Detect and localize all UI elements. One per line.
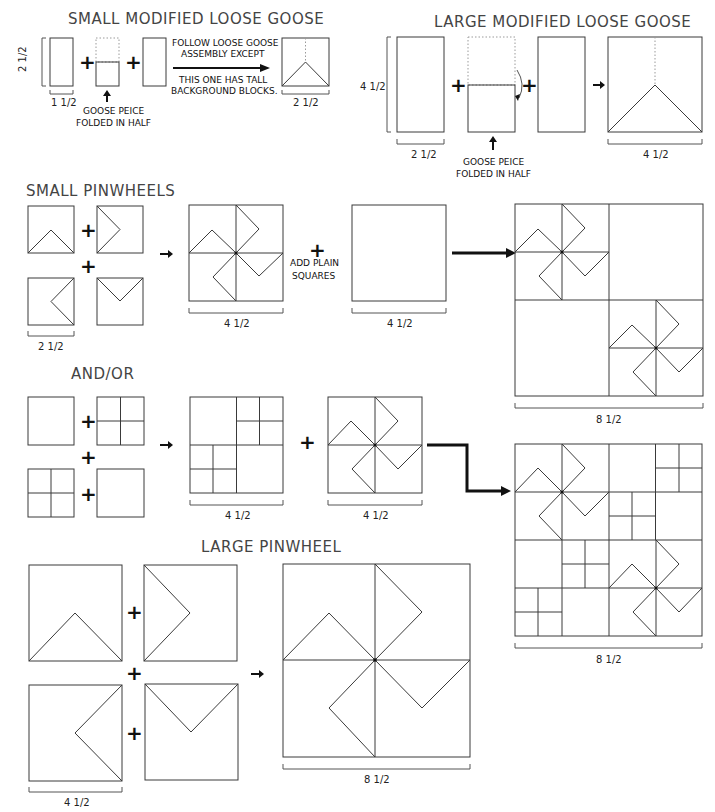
goose-triangle	[97, 206, 120, 253]
goose-triangle	[145, 684, 238, 732]
plus-sign: +	[126, 600, 143, 624]
goose-triangle	[97, 278, 143, 301]
right-arrow-icon	[160, 250, 173, 258]
small-goose-height-label: 2 1/2	[17, 46, 28, 72]
goose-triangle	[28, 230, 74, 253]
goose-piece	[96, 62, 119, 86]
plus-sign: +	[80, 482, 97, 506]
tall-background-block	[143, 38, 166, 86]
four-patch-unit	[97, 397, 144, 445]
small-pinwheel-result-label: 4 1/2	[224, 318, 250, 329]
right-arrow-icon	[160, 441, 173, 449]
plus-sign: +	[126, 721, 143, 745]
width-bracket	[608, 139, 702, 144]
width-bracket	[189, 308, 283, 313]
large-goose-title: LARGE MODIFIED LOOSE GOOSE	[434, 13, 691, 31]
plain-square-label: 4 1/2	[387, 318, 413, 329]
goose-note-line1: GOOSE PEICE	[83, 106, 144, 116]
height-bracket	[42, 38, 46, 86]
goose-note-line2: FOLDED IN HALF	[456, 169, 531, 179]
instruction-line1: FOLLOW LOOSE GOOSE	[172, 38, 279, 48]
arrowhead-icon	[260, 64, 270, 72]
plus-sign: +	[79, 50, 96, 74]
width-bracket	[328, 500, 422, 505]
quilt-assembly-diagram: SMALL MODIFIED LOOSE GOOSE 2 1/2 1 1/2 +…	[0, 0, 715, 812]
instruction-line4: BACKGROUND BLOCKS.	[171, 86, 278, 96]
width-bracket	[352, 308, 446, 313]
elbow-arrow-line	[427, 445, 503, 491]
goose-triangle	[608, 85, 702, 132]
add-note-line1: ADD PLAIN	[290, 258, 339, 268]
large-pinwheel-result-label: 8 1/2	[364, 774, 390, 785]
assembled-block-pinwheels-plain	[515, 204, 703, 396]
plus-sign: +	[521, 73, 538, 97]
assembled-a-label: 8 1/2	[596, 414, 622, 425]
height-bracket	[387, 37, 391, 132]
small-pinwheel-unit-label: 2 1/2	[38, 341, 64, 352]
goose-triangle	[29, 613, 122, 661]
assembled-b-label: 8 1/2	[596, 654, 622, 665]
width-bracket	[515, 643, 702, 648]
small-pinwheel-block	[328, 397, 422, 493]
small-goose-width-label: 1 1/2	[51, 97, 77, 108]
goose-triangle	[75, 685, 122, 781]
small-goose-result-label: 2 1/2	[293, 97, 319, 108]
up-arrow-icon	[103, 90, 111, 102]
pinwheel-label: 4 1/2	[363, 510, 389, 521]
plus-sign: +	[80, 218, 97, 242]
large-goose-result-label: 4 1/2	[643, 149, 669, 160]
assembled-block-mixed	[515, 444, 702, 636]
width-bracket	[28, 331, 74, 336]
plus-sign: +	[125, 50, 142, 74]
arrowhead-icon	[501, 486, 511, 496]
four-patch-label: 4 1/2	[225, 510, 251, 521]
goose-triangle	[282, 62, 329, 86]
goose-piece	[468, 85, 515, 132]
right-arrow-icon	[593, 81, 605, 89]
plus-sign: +	[126, 661, 143, 685]
instruction-line2: ASSEMBLY EXCEPT	[181, 49, 265, 59]
tall-background-block	[397, 37, 444, 132]
small-pinwheel-block	[189, 205, 283, 301]
large-pinwheel-unit-label: 4 1/2	[64, 797, 90, 808]
plain-square	[352, 205, 446, 301]
width-bracket	[515, 403, 703, 408]
width-bracket	[190, 500, 283, 505]
folded-half-outline	[96, 38, 119, 62]
folded-half-outline	[468, 37, 515, 85]
plus-sign: +	[80, 254, 97, 278]
plus-sign: +	[450, 73, 467, 97]
four-patch-unit	[28, 469, 74, 517]
add-note-line2: SQUARES	[292, 271, 335, 281]
tall-background-block	[50, 38, 73, 86]
small-pinwheels-title: SMALL PINWHEELS	[26, 182, 175, 200]
plain-small-square	[97, 469, 144, 517]
tall-background-block	[538, 37, 585, 132]
plus-sign: +	[80, 445, 97, 469]
large-pinwheel-title: LARGE PINWHEEL	[201, 538, 342, 556]
up-arrow-icon	[489, 136, 497, 150]
plain-small-square	[28, 397, 74, 445]
width-bracket	[397, 139, 444, 144]
instruction-line3: THIS ONE HAS TALL	[178, 75, 267, 85]
large-pinwheel-block	[283, 564, 470, 757]
plus-sign: +	[80, 409, 97, 433]
goose-triangle	[144, 565, 190, 661]
width-bracket	[283, 764, 470, 769]
and-or-title: AND/OR	[71, 365, 134, 383]
large-goose-width-label: 2 1/2	[411, 149, 437, 160]
width-bracket	[282, 90, 329, 94]
goose-note-line1: GOOSE PEICE	[463, 157, 524, 167]
right-arrow-icon	[251, 670, 264, 678]
four-patch-block	[190, 397, 283, 493]
width-bracket	[29, 787, 122, 792]
goose-triangle	[51, 278, 74, 325]
large-goose-height-label: 4 1/2	[360, 81, 386, 92]
small-goose-title: SMALL MODIFIED LOOSE GOOSE	[68, 10, 324, 28]
goose-note-line2: FOLDED IN HALF	[76, 118, 151, 128]
width-bracket	[50, 90, 73, 94]
plus-sign: +	[299, 430, 316, 454]
